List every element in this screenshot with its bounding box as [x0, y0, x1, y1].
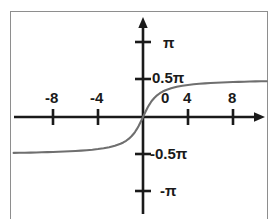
x-tick-label-pos4: 4 [183, 90, 191, 105]
arctan-plot-figure: -8 -4 0 4 8 π 0.5π -0.5π -π [0, 0, 280, 219]
x-axis [14, 112, 265, 122]
y-tick-label-pi: π [163, 35, 174, 50]
y-tick-label-neg-half-pi: -0.5π [150, 146, 187, 161]
plot-canvas [0, 0, 280, 219]
x-tick-label-neg4: -4 [90, 90, 103, 105]
y-tick-label-half-pi: 0.5π [152, 70, 184, 85]
x-tick-label-neg8: -8 [45, 90, 58, 105]
x-tick-label-pos8: 8 [228, 90, 236, 105]
y-tick-label-neg-pi: -π [160, 183, 176, 198]
x-tick-label-zero: 0 [161, 90, 169, 105]
